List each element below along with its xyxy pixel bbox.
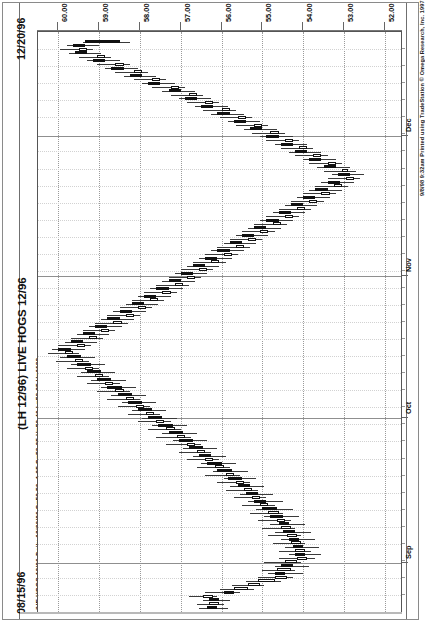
candle-body — [309, 158, 321, 161]
candle-body — [126, 314, 134, 317]
candle-body — [171, 86, 179, 89]
minor-time-tick — [402, 304, 405, 305]
candle-body — [187, 443, 195, 446]
candle-body — [211, 260, 219, 263]
candle-body — [275, 576, 287, 579]
minor-gridline — [38, 288, 401, 289]
chart-plot-area[interactable] — [37, 31, 402, 613]
candle-wick — [230, 239, 263, 240]
candle-body — [244, 488, 252, 491]
minor-time-tick — [402, 389, 405, 390]
candle-body — [313, 154, 321, 157]
candle-body — [105, 382, 113, 385]
price-axis: 60.0059.0058.0057.0056.0055.0054.0053.00… — [37, 0, 402, 31]
candle-wick — [254, 224, 287, 225]
minor-gridline — [38, 271, 401, 272]
candle-body — [268, 511, 278, 514]
minor-gridline — [38, 220, 401, 221]
candle-body — [75, 359, 83, 362]
candle-body — [260, 503, 268, 506]
candle-body — [179, 439, 193, 442]
minor-time-tick — [402, 509, 405, 510]
candle-body — [270, 131, 278, 134]
candle-wick — [138, 421, 171, 422]
minor-time-tick — [402, 594, 405, 595]
candle-body — [224, 591, 234, 594]
candle-body — [283, 530, 295, 533]
candle-body — [162, 291, 170, 294]
month-gridline — [38, 136, 401, 137]
candle-wick — [197, 467, 230, 468]
candle-body — [238, 116, 246, 119]
candle-wick — [97, 64, 130, 65]
candle-body — [115, 63, 123, 66]
candle-body — [87, 370, 101, 373]
candle-body — [175, 283, 183, 286]
candle-body — [285, 215, 293, 218]
candle-body — [136, 405, 144, 408]
candle-body — [107, 386, 121, 389]
candle-wick — [315, 186, 348, 187]
candle-body — [248, 238, 256, 241]
candle-body — [273, 222, 281, 225]
minor-time-tick — [402, 236, 405, 237]
price-tick-label: 59.00 — [101, 4, 110, 23]
minor-time-tick — [402, 219, 405, 220]
candle-wick — [281, 148, 314, 149]
candle-wick — [97, 391, 130, 392]
price-tick-label: 55.00 — [264, 4, 273, 23]
candle-body — [187, 276, 195, 279]
minor-gridline — [38, 66, 401, 67]
candle-body — [138, 306, 146, 309]
candle-body — [236, 245, 244, 248]
candle-body — [324, 165, 336, 168]
minor-time-tick — [402, 287, 405, 288]
candle-wick — [303, 193, 336, 194]
candle-body — [193, 264, 205, 267]
page-title: (LH 12/96) LIVE HOGS 12/96 — [16, 277, 28, 430]
minor-time-tick — [402, 168, 405, 169]
candle-body — [207, 606, 217, 609]
candle-body — [287, 534, 297, 537]
candle-body — [246, 492, 258, 495]
price-tick-label: 53.00 — [346, 4, 355, 23]
month-tick — [402, 275, 408, 276]
candle-wick — [217, 482, 250, 483]
candle-body — [134, 70, 142, 73]
candle-body — [207, 462, 221, 465]
candle-wick — [71, 338, 104, 339]
candle-body — [120, 310, 132, 313]
candle-wick — [205, 254, 238, 255]
price-tick-label: 54.00 — [305, 4, 314, 23]
candle-body — [95, 374, 103, 377]
candle-body — [299, 146, 307, 149]
candle-wick — [67, 368, 100, 369]
candle-body — [89, 336, 97, 339]
candle-body — [148, 416, 162, 419]
candle-wick — [60, 49, 93, 50]
month-tick — [402, 417, 408, 418]
minor-gridline — [38, 237, 401, 238]
candle-body — [254, 500, 266, 503]
candle-body — [315, 188, 327, 191]
minor-time-tick — [402, 543, 405, 544]
candle-wick — [107, 399, 140, 400]
minor-gridline — [38, 424, 401, 425]
candle-wick — [156, 285, 189, 286]
minor-gridline — [38, 100, 401, 101]
candle-body — [156, 420, 164, 423]
minor-time-tick — [402, 560, 405, 561]
candle-body — [279, 211, 291, 214]
minor-gridline — [38, 83, 401, 84]
candle-body — [260, 230, 268, 233]
candle-wick — [226, 490, 259, 491]
candle-body — [189, 93, 197, 96]
candle-body — [205, 101, 213, 104]
candle-body — [77, 344, 85, 347]
candle-body — [236, 481, 244, 484]
candle-body — [83, 332, 95, 335]
minor-time-tick — [402, 338, 405, 339]
candle-wick — [309, 163, 342, 164]
candle-body — [217, 112, 229, 115]
